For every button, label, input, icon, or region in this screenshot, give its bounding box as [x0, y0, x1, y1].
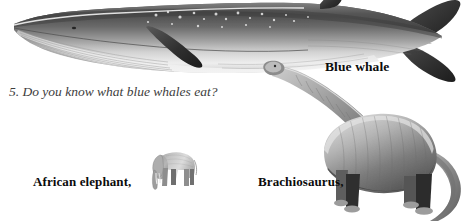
dinosaur-eye — [274, 65, 276, 67]
caption-dinosaur: Brachiosaurus, the largest dinosaur. — [258, 143, 344, 221]
question-text: 5. Do you know what blue whales eat? — [9, 84, 217, 100]
caption-dinosaur-line-2: the largest — [258, 220, 344, 221]
caption-elephant-line-2: the largest land — [33, 220, 131, 221]
whale-eye — [72, 27, 76, 30]
african-elephant-illustration — [146, 140, 200, 194]
caption-elephant: African elephant, the largest land anima… — [33, 143, 131, 221]
caption-elephant-line-1: African elephant, — [33, 174, 131, 189]
caption-dinosaur-line-1: Brachiosaurus, — [258, 174, 344, 189]
textbook-page: Blue whale 5. Do you know what blue whal… — [0, 0, 467, 221]
